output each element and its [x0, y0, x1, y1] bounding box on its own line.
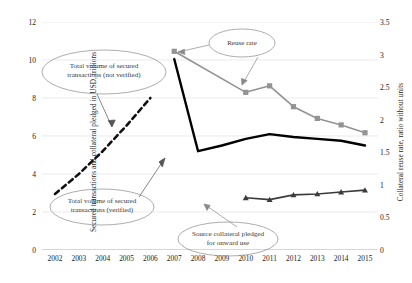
y-axis-left-tick-label: 6	[14, 132, 36, 141]
x-axis-tick-label: 2011	[262, 254, 277, 263]
x-axis-tick-label: 2015	[358, 254, 373, 263]
x-axis-tick-label: 2012	[286, 254, 301, 263]
gridlines	[42, 22, 378, 250]
series-marker-square	[172, 49, 177, 54]
x-axis-tick-label: 2013	[310, 254, 325, 263]
plot-area	[42, 22, 378, 250]
series-line	[246, 190, 365, 200]
series-marker-square	[267, 83, 272, 88]
y-axis-left-tick-label: 4	[14, 170, 36, 179]
x-axis-tick-label: 2004	[95, 254, 110, 263]
x-axis-tick-label: 2003	[71, 254, 86, 263]
series-layer	[55, 49, 368, 202]
y-axis-left-ticks: 024681012	[14, 0, 36, 283]
series-line	[174, 59, 365, 151]
y-axis-left-tick-label: 8	[14, 94, 36, 103]
y-axis-right-tick-label: 2.5	[380, 83, 390, 92]
y-axis-right-tick-label: 2	[380, 115, 384, 124]
plot-svg	[42, 22, 378, 250]
series-line	[174, 51, 365, 132]
y-axis-left-tick-label: 12	[14, 18, 36, 27]
x-axis-tick-label: 2008	[191, 254, 206, 263]
series-line	[55, 98, 150, 194]
y-axis-left-tick-label: 10	[14, 56, 36, 65]
x-axis-ticks: 2002200320042005200620072008200920102011…	[0, 254, 412, 268]
y-axis-right-tick-label: 0.5	[380, 213, 390, 222]
x-axis-tick-label: 2007	[167, 254, 182, 263]
series-marker-square	[362, 130, 367, 135]
y-axis-right-tick-label: 1.5	[380, 148, 390, 157]
x-axis-tick-label: 2006	[143, 254, 158, 263]
series-marker-square	[243, 90, 248, 95]
x-axis-tick-label: 2014	[334, 254, 349, 263]
y-axis-left-tick-label: 2	[14, 208, 36, 217]
chart-container: Secured transactions and collateral pled…	[0, 0, 412, 283]
y-axis-right-tick-label: 1	[380, 180, 384, 189]
x-axis-tick-label: 2010	[238, 254, 253, 263]
series-marker-square	[315, 116, 320, 121]
x-axis-tick-label: 2009	[215, 254, 230, 263]
series-marker-square	[339, 122, 344, 127]
x-axis-tick-label: 2005	[119, 254, 134, 263]
x-axis-tick-label: 2002	[48, 254, 63, 263]
y-axis-right-tick-label: 3	[380, 50, 384, 59]
y-axis-right-ticks: 00.511.522.533.5	[380, 0, 404, 283]
y-axis-right-tick-label: 3.5	[380, 18, 390, 27]
series-marker-square	[291, 104, 296, 109]
